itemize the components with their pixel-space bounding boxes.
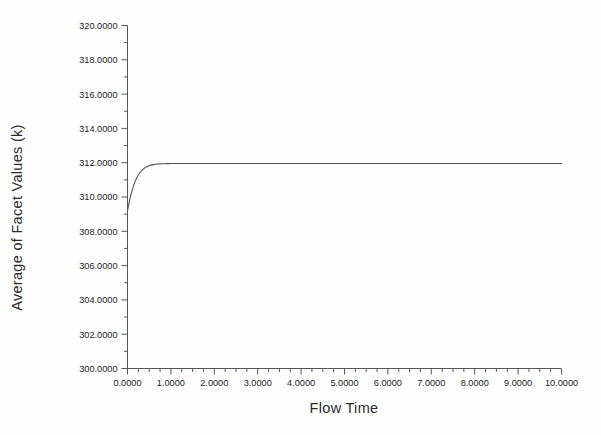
x-axis-tick-label: 1.0000 bbox=[157, 378, 185, 388]
plot-area: 320.0000318.0000316.0000314.0000312.0000… bbox=[0, 0, 601, 435]
y-axis-tick-label: 306.0000 bbox=[79, 261, 117, 271]
x-axis-tick-label: 7.0000 bbox=[417, 378, 445, 388]
x-axis-tick-label: 2.0000 bbox=[200, 378, 228, 388]
x-axis-tick-label: 5.0000 bbox=[330, 378, 358, 388]
data-series-line bbox=[128, 164, 562, 211]
chart-container: Average of Facet Values (k) 320.0000318.… bbox=[0, 0, 601, 435]
x-axis-tick-label: 8.0000 bbox=[461, 378, 489, 388]
x-axis-tick-label: 10.0000 bbox=[545, 378, 578, 388]
y-axis-tick-label: 314.0000 bbox=[79, 124, 117, 134]
y-axis-tick-label: 318.0000 bbox=[79, 55, 117, 65]
x-axis-tick-label: 0.0000 bbox=[113, 378, 141, 388]
y-axis-tick-label: 310.0000 bbox=[79, 192, 117, 202]
x-axis-tick-label: 6.0000 bbox=[374, 378, 402, 388]
y-axis-tick-label: 316.0000 bbox=[79, 90, 117, 100]
y-axis-tick-label: 304.0000 bbox=[79, 295, 117, 305]
y-axis-tick-label: 302.0000 bbox=[79, 330, 117, 340]
y-axis-tick-label: 320.0000 bbox=[79, 21, 117, 31]
y-axis-tick-label: 308.0000 bbox=[79, 227, 117, 237]
x-axis-tick-label: 9.0000 bbox=[504, 378, 532, 388]
y-axis-tick-label: 312.0000 bbox=[79, 158, 117, 168]
x-axis-title: Flow Time bbox=[127, 400, 561, 416]
x-axis-tick-label: 4.0000 bbox=[287, 378, 315, 388]
y-axis-tick-label: 300.0000 bbox=[79, 364, 117, 374]
x-axis-tick-label: 3.0000 bbox=[244, 378, 272, 388]
